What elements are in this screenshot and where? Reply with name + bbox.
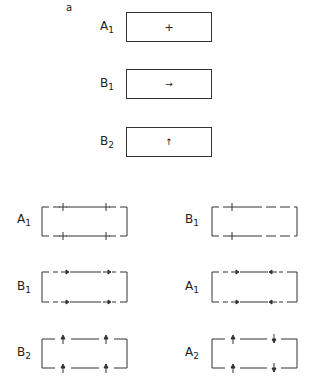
arrow-right-icon (61, 270, 69, 274)
plus-icon (228, 232, 236, 240)
arrow-right-icon (103, 270, 111, 274)
arrow-left-icon (269, 300, 277, 304)
plus-icon (59, 232, 67, 240)
arrow-up-icon (104, 335, 108, 344)
arrow-right-icon (103, 300, 111, 304)
plus-icon (102, 232, 110, 240)
grid-diagram (0, 0, 316, 388)
arrow-right-icon (231, 270, 239, 274)
box-grid-left-b2 (42, 335, 127, 373)
box-grid-right-a1 (212, 270, 297, 304)
arrow-up-icon (231, 335, 235, 344)
arrow-down-icon (272, 334, 276, 343)
arrow-up-icon (231, 364, 235, 373)
arrow-left-icon (269, 270, 277, 274)
plus-icon (59, 203, 67, 211)
box-grid-left-b1 (42, 270, 127, 304)
arrow-right-icon (61, 300, 69, 304)
box-grid-right-a2 (212, 334, 297, 373)
arrow-up-icon (61, 335, 65, 344)
plus-icon (228, 203, 236, 211)
arrow-up-icon (61, 364, 65, 373)
arrow-up-icon (104, 364, 108, 373)
box-grid-left-a1 (42, 203, 127, 240)
plus-icon (102, 203, 110, 211)
arrow-right-icon (231, 300, 239, 304)
box-grid-right-b1 (212, 203, 297, 240)
arrow-down-icon (272, 363, 276, 372)
